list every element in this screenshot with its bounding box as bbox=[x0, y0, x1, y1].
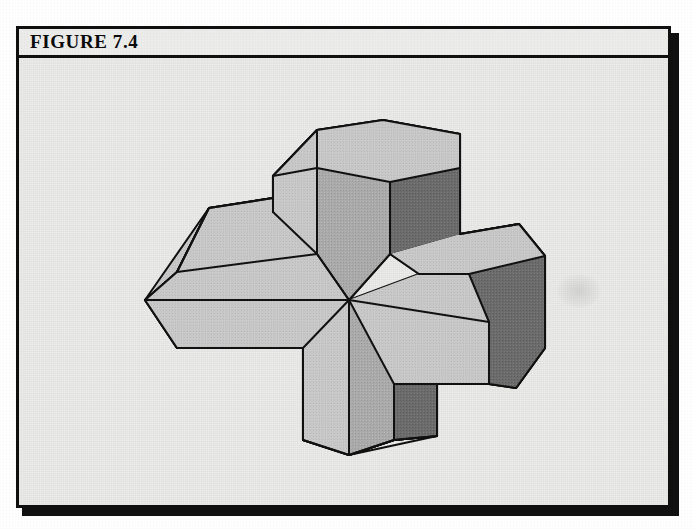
figure-label: FIGURE 7.4 bbox=[30, 31, 138, 53]
top-arm-face-left bbox=[273, 130, 317, 254]
solid-face-group bbox=[145, 120, 545, 455]
isometric-cross-solid-illustration bbox=[19, 58, 668, 508]
bottom-arm-face-right bbox=[394, 384, 437, 440]
figure-title-bar: FIGURE 7.4 bbox=[19, 29, 668, 58]
figure-plate: FIGURE 7.4 bbox=[16, 26, 671, 508]
right-arm-face-upper bbox=[349, 274, 489, 322]
figure-drawing-area bbox=[19, 58, 668, 508]
